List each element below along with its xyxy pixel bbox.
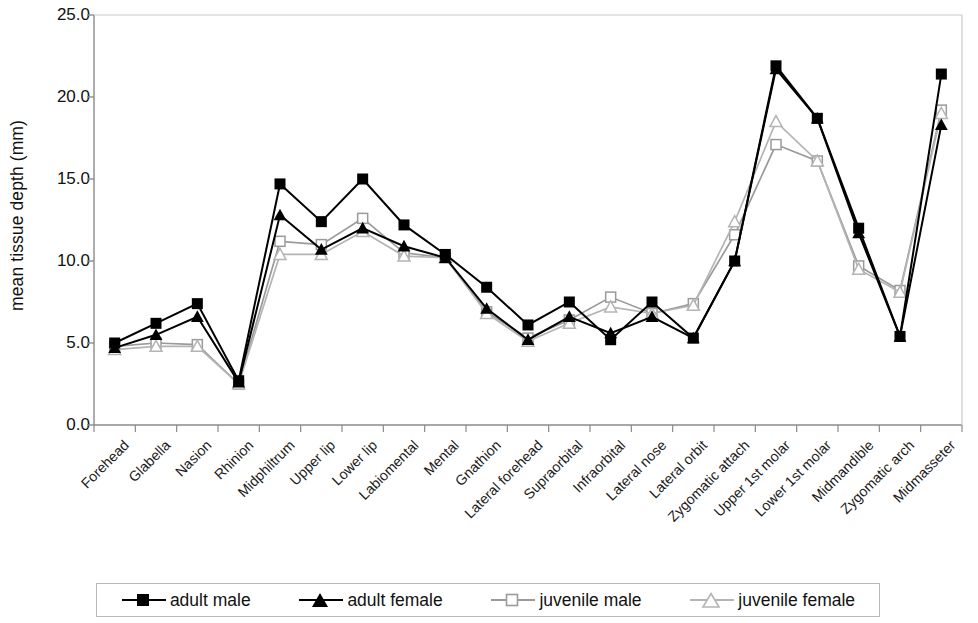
legend-label: adult male bbox=[170, 590, 251, 611]
filled-square-marker-icon bbox=[121, 591, 167, 609]
data-point-marker bbox=[398, 240, 411, 252]
data-point-marker bbox=[936, 69, 947, 80]
data-point-marker bbox=[647, 297, 658, 308]
legend-item-juvenile-female: juvenile female bbox=[689, 590, 855, 611]
data-point-marker bbox=[275, 236, 285, 246]
data-point-marker bbox=[151, 318, 162, 329]
data-point-marker bbox=[523, 319, 534, 330]
legend-item-adult-female: adult female bbox=[298, 590, 442, 611]
tissue-depth-line-chart: mean tissue depth (mm) 0.05.010.015.020.… bbox=[0, 0, 978, 623]
data-point-marker bbox=[481, 282, 492, 293]
series-juvenile-female bbox=[109, 107, 948, 389]
data-point-marker bbox=[357, 174, 368, 185]
legend-item-adult-male: adult male bbox=[121, 590, 251, 611]
legend-label: adult female bbox=[347, 590, 442, 611]
data-point-marker bbox=[150, 328, 163, 340]
filled-triangle-marker-icon bbox=[298, 591, 344, 609]
data-point-marker bbox=[604, 327, 617, 339]
data-point-marker bbox=[275, 178, 286, 189]
open-triangle-marker-icon bbox=[689, 591, 735, 609]
data-point-marker bbox=[192, 298, 203, 309]
data-point-marker bbox=[399, 219, 410, 230]
data-point-marker bbox=[771, 140, 781, 150]
legend-label: juvenile female bbox=[738, 590, 855, 611]
data-point-marker bbox=[729, 216, 741, 227]
chart-legend: adult male adult female juvenile male ju… bbox=[96, 583, 880, 617]
plot-area bbox=[0, 0, 978, 623]
data-point-marker bbox=[316, 216, 327, 227]
data-point-marker bbox=[770, 116, 782, 127]
open-square-marker-icon bbox=[490, 591, 536, 609]
data-point-marker bbox=[935, 118, 948, 130]
legend-item-juvenile-male: juvenile male bbox=[490, 590, 641, 611]
legend-label: juvenile male bbox=[539, 590, 641, 611]
data-point-marker bbox=[274, 209, 287, 221]
data-point-marker bbox=[564, 297, 575, 308]
data-point-marker bbox=[730, 230, 740, 240]
series-adult-female bbox=[108, 63, 947, 388]
